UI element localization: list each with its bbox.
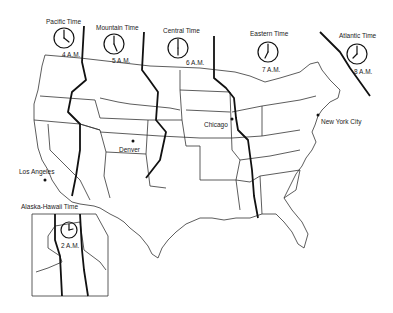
- atlantic-time-label: 8 A.M.: [354, 68, 372, 75]
- central-clock-icon: [168, 38, 188, 58]
- mountain-time-label: 5 A.M.: [112, 57, 130, 64]
- los-angeles-dot: [44, 179, 47, 182]
- eastern-zone-label: Eastern Time: [250, 30, 288, 37]
- new-york-dot: [317, 114, 320, 117]
- atlantic-clock-icon: [347, 44, 367, 64]
- chicago-label: Chicago: [204, 121, 228, 128]
- central-time-label: 6 A.M.: [186, 59, 204, 66]
- alaska-hawaii-time-label: 2 A.M.: [61, 242, 79, 249]
- us-time-zone-map: [0, 0, 393, 313]
- eastern-time-label: 7 A.M.: [262, 66, 280, 73]
- mountain-zone-label: Mountain Time: [96, 24, 139, 31]
- alaska-hawaii-inset: [32, 214, 108, 296]
- pacific-time-label: 4 A.M.: [62, 51, 80, 58]
- denver-dot: [132, 140, 135, 143]
- mountain-central-boundary: [142, 32, 166, 178]
- mountain-clock-icon: [104, 34, 124, 54]
- denver-label: Denver: [119, 146, 140, 153]
- alaska-hawaii-zone-label: Alaska-Hawaii Time: [21, 203, 78, 210]
- pacific-clock-icon: [54, 28, 74, 48]
- new-york-city-label: New York City: [321, 118, 361, 125]
- los-angeles-label: Los Angeles: [19, 168, 54, 175]
- pacific-zone-label: Pacific Time: [46, 18, 81, 25]
- alaska-clock-icon: [61, 222, 77, 238]
- chicago-dot: [231, 118, 234, 121]
- eastern-atlantic-boundary: [320, 32, 370, 96]
- eastern-clock-icon: [258, 42, 278, 62]
- atlantic-zone-label: Atlantic Time: [339, 32, 376, 39]
- state-lines: [34, 70, 316, 214]
- alaska-boundary-2: [80, 214, 88, 296]
- central-zone-label: Central Time: [163, 27, 200, 34]
